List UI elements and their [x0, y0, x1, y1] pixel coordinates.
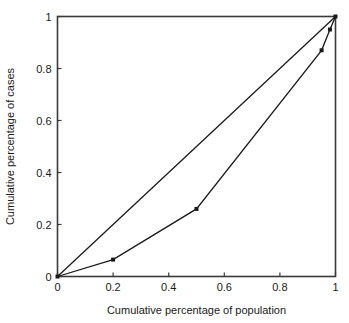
x-axis-tick-labels: 00.20.40.60.81 [54, 281, 338, 293]
y-tick-label-0: 0 [45, 271, 51, 283]
x-tick-label-4: 0.8 [272, 281, 287, 293]
x-tick-label-5: 1 [332, 281, 338, 293]
data-series-layer [56, 15, 338, 279]
x-tick-label-3: 0.6 [217, 281, 232, 293]
y-tick-label-2: 0.4 [36, 167, 51, 179]
x-tick-label-0: 0 [54, 281, 60, 293]
y-tick-label-4: 0.8 [36, 63, 51, 75]
data-point-1-3 [320, 48, 324, 52]
x-tick-label-2: 0.4 [161, 281, 176, 293]
series-line-line-of-equality [58, 17, 336, 277]
y-axis-tick-labels: 00.20.40.60.81 [36, 11, 51, 283]
chart-page: 00.20.40.60.81 00.20.40.60.81 Cumulative… [0, 0, 349, 323]
x-tick-label-1: 0.2 [105, 281, 120, 293]
y-tick-label-3: 0.6 [36, 115, 51, 127]
x-axis-title: Cumulative percentage of population [107, 304, 286, 316]
series-line-of-equality [58, 17, 336, 277]
data-point-1-2 [195, 207, 199, 211]
y-tick-label-5: 1 [45, 11, 51, 23]
data-point-1-4 [328, 28, 332, 32]
y-tick-label-1: 0.2 [36, 219, 51, 231]
data-point-1-1 [111, 258, 115, 262]
lorenz-curve-chart: 00.20.40.60.81 00.20.40.60.81 Cumulative… [0, 0, 349, 323]
data-point-1-0 [56, 275, 60, 279]
y-axis-title: Cumulative percentage of cases [4, 67, 16, 225]
data-point-1-5 [334, 15, 338, 19]
